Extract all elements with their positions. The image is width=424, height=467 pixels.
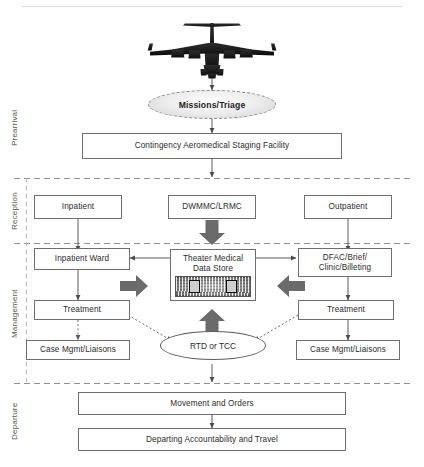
node-departing-accountability-label: Departing Accountability and Travel bbox=[146, 435, 278, 444]
node-dfac-brief-clinic-billeting[interactable]: DFAC/Brief/ Clinic/Billeting bbox=[298, 248, 392, 277]
node-outpatient[interactable]: Outpatient bbox=[304, 195, 392, 219]
node-outpatient-label: Outpatient bbox=[329, 202, 368, 211]
lane-label-management-text: Management bbox=[10, 290, 19, 339]
flowchart-diagram: Prearrival Reception Management Departur… bbox=[0, 0, 424, 467]
node-dfac-line2: Clinic/Billeting bbox=[319, 263, 372, 273]
node-treatment-left[interactable]: Treatment bbox=[34, 300, 130, 320]
node-treatment-right-label: Treatment bbox=[327, 305, 365, 314]
node-rtd-or-tcc[interactable]: RTD or TCC bbox=[160, 331, 266, 360]
block-arrow-up-rtd bbox=[199, 309, 225, 333]
node-case-mgmt-left[interactable]: Case Mgmt/Liaisons bbox=[26, 340, 130, 360]
node-case-mgmt-left-label: Case Mgmt/Liaisons bbox=[40, 345, 116, 354]
node-data-store-line2: Data Store bbox=[193, 264, 233, 274]
node-inpatient-ward-label: Inpatient Ward bbox=[55, 254, 109, 263]
node-missions-triage-label: Missions/Triage bbox=[179, 100, 246, 110]
node-case-mgmt-right[interactable]: Case Mgmt/Liaisons bbox=[296, 340, 400, 360]
block-arrow-down-dwmmc bbox=[199, 220, 225, 245]
node-inpatient-label: Inpatient bbox=[62, 202, 94, 211]
lane-label-management: Management bbox=[6, 248, 22, 380]
aircraft-icon bbox=[148, 23, 277, 78]
node-departing-accountability[interactable]: Departing Accountability and Travel bbox=[78, 428, 346, 451]
node-missions-triage[interactable]: Missions/Triage bbox=[148, 90, 276, 119]
node-inpatient-ward[interactable]: Inpatient Ward bbox=[34, 248, 130, 270]
node-casf[interactable]: Contingency Aeromedical Staging Facility bbox=[82, 133, 342, 159]
node-rtd-or-tcc-label: RTD or TCC bbox=[190, 341, 236, 351]
node-dfac-line1: DFAC/Brief/ bbox=[323, 253, 367, 263]
lane-label-reception: Reception bbox=[6, 182, 22, 240]
node-theater-medical-data-store[interactable]: Theater Medical Data Store bbox=[170, 249, 256, 301]
block-arrow-left-to-datastore bbox=[277, 275, 305, 297]
node-inpatient[interactable]: Inpatient bbox=[34, 195, 122, 219]
lane-label-departure-text: Departure bbox=[10, 402, 19, 439]
node-casf-label: Contingency Aeromedical Staging Facility bbox=[135, 141, 290, 150]
edge-treatment-left-to-rtd bbox=[128, 315, 172, 341]
node-dwmmc-lrmc[interactable]: DWMMC/LRMC bbox=[168, 195, 256, 219]
node-treatment-right[interactable]: Treatment bbox=[298, 300, 394, 320]
edge-treatment-right-to-rtd bbox=[254, 315, 298, 341]
lane-label-departure: Departure bbox=[6, 388, 22, 454]
node-case-mgmt-right-label: Case Mgmt/Liaisons bbox=[310, 345, 386, 354]
lane-label-prearrival: Prearrival bbox=[6, 86, 22, 170]
node-treatment-left-label: Treatment bbox=[63, 305, 101, 314]
node-data-store-line1: Theater Medical bbox=[183, 254, 243, 264]
node-movement-and-orders[interactable]: Movement and Orders bbox=[78, 392, 346, 415]
globe-network-icon bbox=[175, 276, 251, 297]
lane-label-prearrival-text: Prearrival bbox=[10, 110, 19, 146]
lane-label-reception-text: Reception bbox=[10, 192, 19, 230]
block-arrow-right-to-datastore bbox=[120, 275, 148, 297]
node-dwmmc-lrmc-label: DWMMC/LRMC bbox=[182, 202, 242, 211]
node-movement-and-orders-label: Movement and Orders bbox=[170, 399, 253, 408]
